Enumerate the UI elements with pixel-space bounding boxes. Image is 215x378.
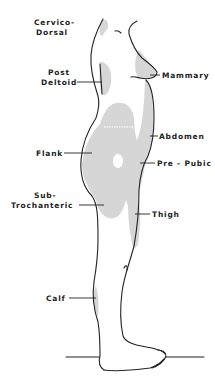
label-flank: Flank [36,149,63,158]
foot-outline [104,350,166,371]
hip-unshaded-spot [113,154,123,168]
knee-crease [124,266,127,270]
label-mammary: Mammary [162,71,209,80]
toe-lines [152,359,164,368]
label-post-deltoid-line1: Post [48,68,70,77]
label-calf: Calf [46,294,66,303]
body-outline-figure [0,0,215,378]
label-cervico-dorsal-line2: Dorsal [36,28,68,37]
label-sub-trochanteric-line1: Sub- [34,191,56,200]
label-abdomen: Abdomen [159,132,205,141]
label-post-deltoid-line2: Deltoid [41,78,77,87]
label-thigh: Thigh [152,210,180,219]
label-pre-pubic: Pre - Pubic [157,159,212,168]
body-site-diagram: Cervico- Dorsal Post Deltoid Mammary Abd… [0,0,215,378]
label-sub-trochanteric-line2: Trochanteric [11,201,73,210]
label-cervico-dorsal-line1: Cervico- [34,18,75,27]
chin-mark [115,31,121,33]
